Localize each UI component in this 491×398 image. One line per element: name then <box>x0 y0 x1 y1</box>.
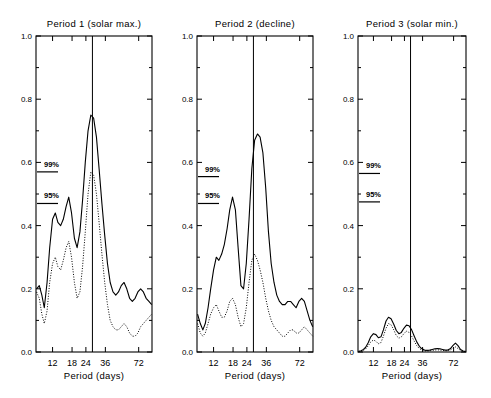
y-tick-label: 0.8 <box>343 95 355 104</box>
x-tick-label: 36 <box>418 358 428 368</box>
x-tick-label: 12 <box>368 358 378 368</box>
y-tick-label: 0.2 <box>343 285 355 294</box>
y-tick-label: 0.4 <box>343 222 355 231</box>
y-tick-label: 0.0 <box>343 348 355 357</box>
x-tick-label: 24 <box>399 358 409 368</box>
y-tick-label: 0.6 <box>343 158 355 167</box>
y-tick-label: 1.0 <box>343 32 355 41</box>
significance-level-label: 95% <box>366 190 381 199</box>
chart-panel-3: Period 3 (solar min.)0.00.20.40.60.81.01… <box>0 0 491 398</box>
periodogram-figure: Period 1 (solar max.)0.00.20.40.60.81.01… <box>0 0 491 398</box>
panel-title: Period 3 (solar min.) <box>366 18 458 29</box>
x-tick-label: 72 <box>449 358 459 368</box>
x-axis-label: Period (days) <box>382 370 442 381</box>
significance-level-label: 99% <box>366 161 381 170</box>
series-dotted <box>359 324 466 352</box>
series-solid <box>359 317 466 351</box>
x-tick-label: 18 <box>387 358 397 368</box>
